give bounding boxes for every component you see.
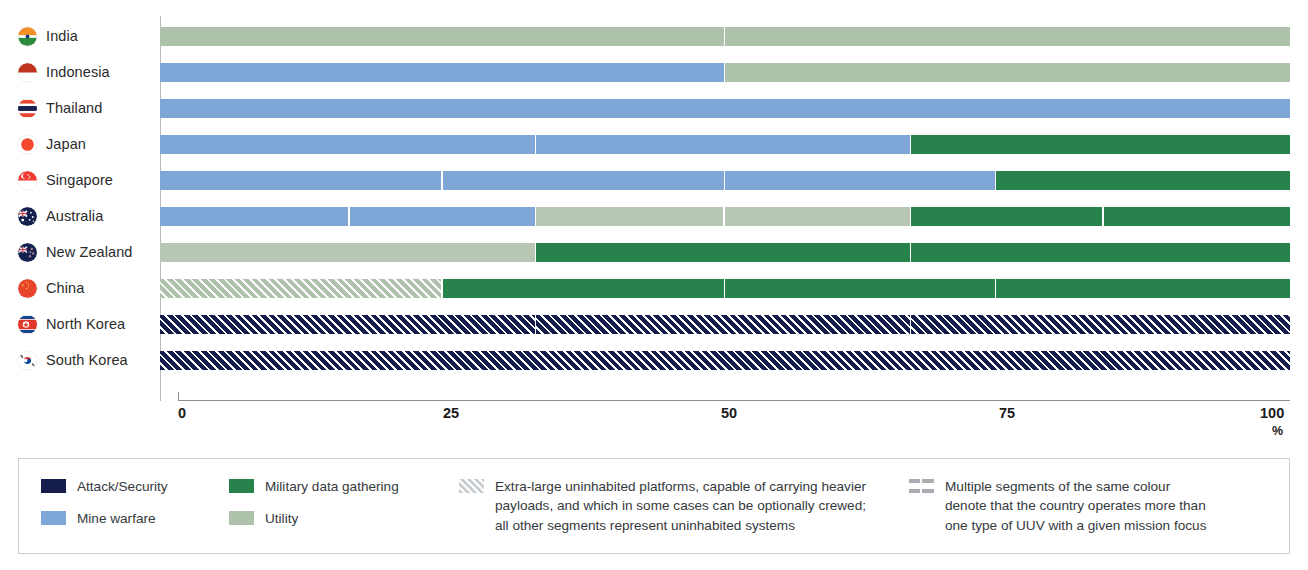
legend-item-military-data-gathering[interactable]: Military data gathering [229,477,459,496]
legend-swatch-mine-warfare [41,511,66,525]
bar-segment[interactable] [536,243,911,262]
legend-note-hatched: Extra-large uninhabited platforms, capab… [459,477,899,548]
stacked-bar[interactable] [160,351,1290,370]
stacked-bar[interactable] [160,243,1290,262]
stacked-bar[interactable] [160,63,1290,82]
bar-segment[interactable] [160,243,536,262]
bar-segment[interactable] [911,135,1290,154]
chart-plot-area: IndiaIndonesiaThailandJapanSingaporeAust… [0,0,1308,448]
country-label-cell: India [0,27,160,46]
bar-rows: IndiaIndonesiaThailandJapanSingaporeAust… [0,18,1308,378]
country-name: Japan [46,136,86,152]
bar-segment[interactable] [443,279,726,298]
flag-south-korea-icon [18,351,37,370]
country-name: China [46,280,84,296]
bar-track [160,306,1290,342]
legend-note-hatched-line-1: Extra-large uninhabited platforms, capab… [495,479,866,494]
legend-item-mine-warfare[interactable]: Mine warfare [41,509,231,528]
bar-track [160,270,1290,306]
flag-thailand-icon [18,99,37,118]
bar-segment[interactable] [160,27,725,46]
country-label-cell: North Korea [0,315,160,334]
legend-note-segments: Multiple segments of the same colour den… [909,477,1279,548]
country-label-cell: Singapore [0,171,160,190]
flag-singapore-icon [18,171,37,190]
legend-swatch-multi-segment-icon [909,479,934,493]
bar-segment[interactable] [160,315,536,334]
flag-indonesia-icon [18,63,37,82]
country-name: Australia [46,208,103,224]
bar-segment[interactable] [911,315,1290,334]
chart-row: China [0,270,1308,306]
bar-segment[interactable] [911,243,1290,262]
axis-tick-label: 75 [999,405,1015,421]
country-label-cell: New Zealand [0,243,160,262]
legend-label-attack-security: Attack/Security [77,477,168,496]
bar-track [160,162,1290,198]
country-label-cell: Australia [0,207,160,226]
country-name: India [46,28,78,44]
country-name: Thailand [46,100,102,116]
bar-segment[interactable] [725,279,996,298]
chart-row: India [0,18,1308,54]
legend-note-segments-line-1: Multiple segments of the same colour [945,479,1170,494]
bar-segment[interactable] [725,63,1290,82]
bar-segment[interactable] [996,279,1290,298]
bar-segment[interactable] [443,171,726,190]
axis-tick-label: 50 [721,405,737,421]
bar-segment[interactable] [725,171,996,190]
legend-column-1: Attack/Security Mine warfare [41,477,231,542]
legend-swatch-attack-security [41,479,66,493]
bar-segment[interactable] [996,171,1290,190]
legend-note-segments-line-2: denote that the country operates more th… [945,498,1206,513]
value-axis-labels: 0255075100 [0,405,1308,429]
bar-segment[interactable] [725,27,1290,46]
bar-segment[interactable] [536,315,911,334]
bar-segment[interactable] [160,171,443,190]
bar-segment[interactable] [160,63,725,82]
axis-tick-label: 100 [1260,405,1284,421]
bar-track [160,18,1290,54]
country-name: North Korea [46,316,125,332]
bar-segment[interactable] [160,99,1290,118]
bar-segment[interactable] [1104,207,1290,226]
bar-track [160,90,1290,126]
bar-track [160,342,1290,378]
country-label-cell: Japan [0,135,160,154]
bar-track [160,54,1290,90]
stacked-bar[interactable] [160,135,1290,154]
bar-segment[interactable] [160,351,1290,370]
legend-item-utility[interactable]: Utility [229,509,459,528]
bar-segment[interactable] [536,207,725,226]
legend-item-attack-security[interactable]: Attack/Security [41,477,231,496]
chart-row: North Korea [0,306,1308,342]
chart-row: Japan [0,126,1308,162]
flag-australia-icon [18,207,37,226]
legend-note-hatched-line-2: payloads, and which in some cases can be… [495,498,866,513]
country-name: Singapore [46,172,113,188]
flag-new-zealand-icon [18,243,37,262]
bar-segment[interactable] [350,207,536,226]
stacked-bar[interactable] [160,171,1290,190]
stacked-bar[interactable] [160,279,1290,298]
bar-segment[interactable] [160,279,443,298]
axis-unit-label: % [1272,424,1283,438]
bar-track [160,234,1290,270]
chart-row: Thailand [0,90,1308,126]
bar-track [160,198,1290,234]
legend-swatch-military-data-gathering [229,479,254,493]
country-name: South Korea [46,352,128,368]
bar-segment[interactable] [160,135,536,154]
bar-segment[interactable] [725,207,911,226]
bar-segment[interactable] [911,207,1103,226]
bar-segment[interactable] [160,207,350,226]
flag-north-korea-icon [18,315,37,334]
value-axis-line [178,400,1290,401]
stacked-bar[interactable] [160,315,1290,334]
bar-segment[interactable] [536,135,911,154]
stacked-bar[interactable] [160,27,1290,46]
flag-india-icon [18,27,37,46]
country-name: Indonesia [46,64,110,80]
stacked-bar[interactable] [160,207,1290,226]
stacked-bar[interactable] [160,99,1290,118]
